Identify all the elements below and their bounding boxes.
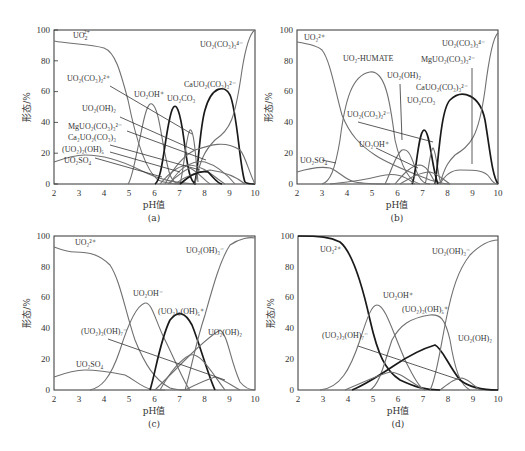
label-uo2co3-3-4minus: UO₂(CO₃)₃⁴⁻ xyxy=(442,39,485,48)
ytick-80: 80 xyxy=(284,56,294,66)
panel-d: 0 20 40 60 80 100 2 3 4 5 6 7 8 9 10 pH值… xyxy=(265,231,503,429)
label-uo2oh-plus: UO₂OH⁺ xyxy=(383,291,413,300)
label-uo2oh2: UO₂(OH)₂ xyxy=(458,334,492,343)
x-axis-label-c: pH值 xyxy=(143,405,166,416)
leader-lines-c xyxy=(108,339,225,380)
plot-area-d xyxy=(298,236,498,390)
ytick-20: 20 xyxy=(284,148,294,158)
panel-tag-a: (a) xyxy=(148,213,160,223)
xtick: 2 xyxy=(295,188,300,198)
ytick-20: 20 xyxy=(41,354,51,364)
x-axis-label-a: pH值 xyxy=(143,199,166,210)
label-uo2so4: UO₂SO₄ xyxy=(64,156,92,165)
xtick: 9 xyxy=(470,188,475,198)
ytick-40: 40 xyxy=(41,117,51,127)
label-uo2-humate: UO₂-HUMATE xyxy=(343,54,393,63)
x-ticks-a: 2 3 4 5 6 7 8 9 10 xyxy=(52,188,260,198)
label-uo2-2plus: UO₂²⁺ xyxy=(75,238,96,247)
xtick: 8 xyxy=(202,394,207,404)
label-uo2oh3-minus: UO₂(OH)₃⁻ xyxy=(186,246,224,255)
label-uo2-2plus: UO22+ xyxy=(73,29,91,41)
label-uo2oh2: UO₂(OH)₂ xyxy=(208,328,242,337)
label-uo2-2-oh5: (UO₂)₂(OH)₅ xyxy=(62,145,104,154)
label-uo2-3-oh5-plus: (UO₂)₃(OH)₅⁺ xyxy=(158,307,204,316)
y-ticks-d: 0 20 40 60 80 100 xyxy=(281,231,295,395)
xtick: 3 xyxy=(77,188,82,198)
y-axis-label-c: 形态/% xyxy=(21,298,32,328)
label-uo2-3-oh7-minus: (UO₂)₃(OH)₇⁻ xyxy=(81,327,127,336)
label-uo2co3-2-2minus: UO₂(CO₃)₂²⁻ xyxy=(347,110,390,119)
ytick-20: 20 xyxy=(41,148,51,158)
xtick: 3 xyxy=(321,394,326,404)
label-uo2co3: UO₂CO₃ xyxy=(167,94,195,103)
x-axis-label-d: pH值 xyxy=(387,405,410,416)
leader-lines-d xyxy=(358,346,460,380)
ytick-100: 100 xyxy=(281,231,295,241)
y-ticks-c: 0 20 40 60 80 100 xyxy=(37,231,51,395)
ytick-0: 0 xyxy=(289,179,294,189)
xtick: 3 xyxy=(77,394,82,404)
label-uo2oh2: UO₂(OH)₂ xyxy=(82,104,116,113)
panel-tag-b: (b) xyxy=(391,213,404,223)
curves-d xyxy=(298,236,498,390)
ytick-40: 40 xyxy=(285,323,295,333)
ytick-0: 0 xyxy=(290,385,295,395)
x-ticks-d: 2 3 4 5 6 7 8 9 10 xyxy=(296,394,503,404)
ytick-100: 100 xyxy=(37,25,51,35)
xtick: 7 xyxy=(177,394,182,404)
panel-b: 0 20 40 60 80 100 2 3 4 5 6 7 8 9 10 pH值… xyxy=(263,25,503,223)
labels-b: UO₂²⁺ UO₂-HUMATE UO₂(OH)₂ UO₂(CO₃)₃⁴⁻ Mg… xyxy=(300,33,485,165)
xtick: 5 xyxy=(371,394,376,404)
xtick: 5 xyxy=(127,394,132,404)
label-uo2oh-plus: UO₂OH⁺ xyxy=(134,90,164,99)
ytick-60: 60 xyxy=(41,292,51,302)
ytick-0: 0 xyxy=(46,179,51,189)
ytick-80: 80 xyxy=(41,262,51,272)
xtick: 7 xyxy=(421,394,426,404)
label-uo2so4: UO₂SO₄ xyxy=(300,156,328,165)
y-axis-label-d: 形态/% xyxy=(265,298,276,328)
label-uo2oh3-minus: UO₂(OH)₃⁻ xyxy=(432,247,470,256)
xtick: 3 xyxy=(320,188,325,198)
label-cauo2co3: CaUO₂(CO₃)₃²⁻ xyxy=(416,83,468,92)
ytick-40: 40 xyxy=(41,323,51,333)
xtick: 9 xyxy=(227,188,232,198)
label-uo2-3-oh7-minus: (UO₂)₃(OH)₇⁻ xyxy=(322,331,368,340)
label-ca2uo2co3: Ca₂UO₂(CO₃)₃ xyxy=(68,133,116,142)
label-uo2co3: UO₂CO₃ xyxy=(407,96,435,105)
xtick: 10 xyxy=(251,394,261,404)
label-mguo2co3: MgUO₂(CO₃)₃²⁻ xyxy=(421,55,475,64)
ytick-60: 60 xyxy=(41,86,51,96)
panel-a: 0 20 40 60 80 100 2 3 4 5 6 7 8 9 10 pH值… xyxy=(21,25,260,223)
label-uo2co3-2-2plus: UO₂(CO₃)₂²⁺ xyxy=(67,74,110,83)
xtick: 8 xyxy=(445,188,450,198)
xtick: 2 xyxy=(296,394,301,404)
ytick-20: 20 xyxy=(285,354,295,364)
ytick-100: 100 xyxy=(37,231,51,241)
xtick: 6 xyxy=(395,188,400,198)
x-ticks-c: 2 3 4 5 6 7 8 9 10 xyxy=(52,394,260,404)
ytick-60: 60 xyxy=(284,86,294,96)
y-ticks-a: 0 20 40 60 80 100 xyxy=(37,25,59,189)
panel-tag-c: (c) xyxy=(148,419,160,429)
label-uo2-3-oh5-plus: (UO₂)₃(OH)₅⁺ xyxy=(402,305,448,314)
xtick: 10 xyxy=(494,394,504,404)
ytick-40: 40 xyxy=(284,117,294,127)
label-uo2oh2: UO₂(OH)₂ xyxy=(387,71,421,80)
panel-tag-d: (d) xyxy=(392,419,405,429)
xtick: 4 xyxy=(346,394,351,404)
xtick: 8 xyxy=(202,188,207,198)
xtick: 6 xyxy=(152,188,157,198)
xtick: 5 xyxy=(370,188,375,198)
label-mguo2co3: MgUO₂(CO₃)₃²⁻ xyxy=(68,122,122,131)
label-uo2-2plus: UO₂²⁺ xyxy=(304,33,325,42)
ytick-80: 80 xyxy=(285,262,295,272)
y-axis-label-a: 形态/% xyxy=(21,92,32,122)
xtick: 7 xyxy=(420,188,425,198)
xtick: 10 xyxy=(494,188,504,198)
y-axis-label-b: 形态/% xyxy=(263,92,274,122)
x-ticks-b: 2 3 4 5 6 7 8 9 10 xyxy=(295,188,503,198)
xtick: 6 xyxy=(396,394,401,404)
ytick-60: 60 xyxy=(285,292,295,302)
xtick: 2 xyxy=(52,394,57,404)
